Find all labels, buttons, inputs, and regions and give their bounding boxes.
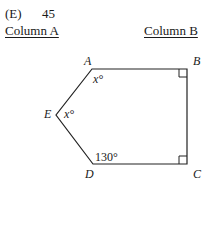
right-angle-mark-b (179, 69, 187, 77)
vertex-label-b: B (193, 55, 200, 67)
vertex-label-d: D (85, 168, 94, 180)
angle-label-a: x° (93, 73, 103, 85)
vertex-label-e: E (44, 108, 51, 120)
pentagon-outline (56, 69, 187, 164)
right-angle-mark-c (179, 156, 187, 164)
angle-label-d: 130° (95, 151, 118, 163)
vertex-label-c: C (193, 168, 201, 180)
angle-label-e: x° (64, 108, 74, 120)
vertex-label-a: A (84, 55, 91, 67)
